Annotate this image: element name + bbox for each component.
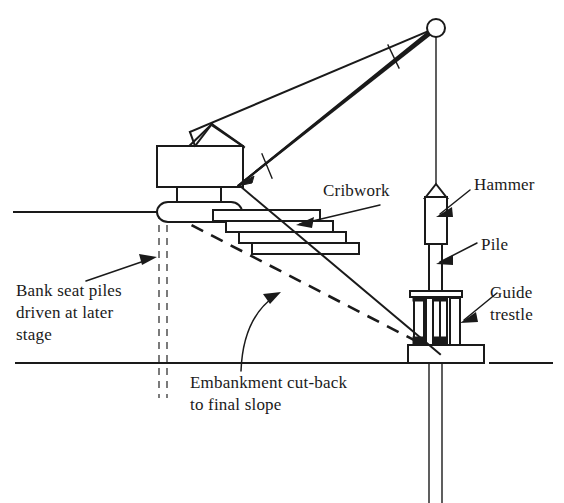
embankment-label-line2: to final slope [190, 395, 282, 414]
crane-machine-house [157, 124, 243, 187]
bank-seat-piles-label-line1: Bank seat piles [16, 281, 122, 300]
hammer-label: Hammer [474, 175, 535, 194]
cribwork-label: Cribwork [323, 181, 390, 200]
sheave-pulley [427, 19, 445, 37]
bank-seat-pile-lines [159, 212, 167, 398]
bank-seat-piles-leader [86, 254, 157, 281]
bank-seat-piles-label-line3: stage [16, 325, 52, 344]
pile-shaft [429, 244, 442, 503]
guide-trestle [408, 291, 484, 363]
embankment-leader [241, 292, 281, 371]
guide-trestle-label-line2: trestle [490, 305, 533, 324]
bank-seat-piles-label-line2: driven at later [16, 303, 114, 322]
piling-rig-diagram: Cribwork Hammer Pile Guide trestle Bank … [0, 0, 564, 503]
pile-label: Pile [481, 235, 508, 254]
crane-tie-line [240, 186, 440, 354]
diagram-canvas: Cribwork Hammer Pile Guide trestle Bank … [0, 0, 564, 503]
guide-trestle-label-line1: Guide [490, 283, 533, 302]
embankment-label-line1: Embankment cut-back [190, 373, 348, 392]
